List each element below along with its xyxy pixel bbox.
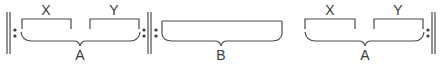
repeat-dot: [142, 28, 145, 31]
brace-b: [162, 21, 282, 46]
repeat-dot: [13, 28, 16, 31]
brace-a-1: [21, 32, 140, 46]
repeat-dot: [154, 34, 157, 37]
repeat-dot: [426, 28, 429, 31]
repeat-dot: [142, 34, 145, 37]
label-x-2: X: [320, 3, 340, 17]
bracket-x-2: [305, 19, 355, 29]
repeat-dot: [426, 34, 429, 37]
repeat-dot: [154, 28, 157, 31]
brace-a-2: [305, 32, 424, 46]
label-a-1: A: [70, 48, 90, 62]
label-y-2: Y: [388, 3, 408, 17]
label-y-1: Y: [104, 3, 124, 17]
repeat-dot: [13, 34, 16, 37]
label-b: B: [211, 48, 231, 62]
bracket-x-1: [22, 19, 71, 29]
bracket-y-1: [90, 19, 139, 29]
bracket-y-2: [374, 19, 423, 29]
label-a-2: A: [355, 48, 375, 62]
label-x-1: X: [36, 3, 56, 17]
